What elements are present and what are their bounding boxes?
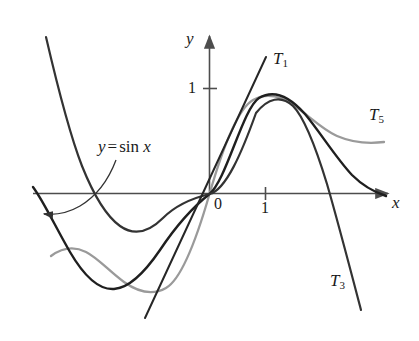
equation-label-sine: y=sin x [98, 138, 151, 155]
equation-operator: = [106, 137, 120, 156]
equation-variable: x [143, 137, 151, 156]
curve-t3 [46, 37, 361, 310]
curve-label-t1-sub: 1 [282, 57, 288, 69]
x-axis-tick-label-1: 1 [261, 200, 269, 216]
y-axis-tick-label-1: 1 [188, 80, 196, 96]
curve-t1 [145, 57, 266, 318]
equation-function: sin [119, 137, 139, 156]
equation-leader-line [44, 160, 116, 214]
curve-label-t5-sub: 5 [378, 113, 384, 125]
y-axis-label: y [186, 30, 194, 47]
x-axis-label: x [392, 194, 400, 211]
origin-label: 0 [214, 196, 222, 212]
curve-label-t1: T1 [273, 50, 288, 67]
equation-lhs: y [98, 137, 106, 156]
taylor-polynomial-figure: y x 1 0 1 T1 T5 T3 y=sin x [0, 0, 419, 341]
curve-label-t5: T5 [369, 106, 384, 123]
curve-label-t3: T3 [330, 272, 345, 289]
curve-label-t3-sub: 3 [339, 279, 345, 291]
plot-canvas [0, 0, 419, 341]
